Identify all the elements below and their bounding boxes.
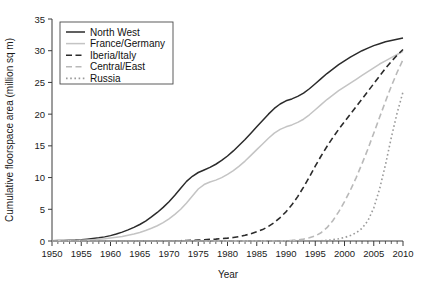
legend-label-3: Central/East bbox=[90, 61, 145, 72]
y-tick-label: 30 bbox=[34, 45, 45, 56]
legend-label-2: Iberia/Italy bbox=[90, 50, 136, 61]
y-tick-label: 10 bbox=[34, 172, 45, 183]
x-tick-label: 1995 bbox=[305, 248, 326, 259]
y-tick-label: 15 bbox=[34, 140, 45, 151]
x-tick-label: 2005 bbox=[363, 248, 384, 259]
legend: North WestFrance/GermanyIberia/ItalyCent… bbox=[60, 22, 173, 84]
x-tick-label: 1950 bbox=[41, 248, 62, 259]
x-tick-label: 1990 bbox=[275, 248, 296, 259]
y-tick-label: 35 bbox=[34, 14, 45, 25]
legend-label-0: North West bbox=[90, 27, 140, 38]
chart-container: Cumulative floorspace area (million sq m… bbox=[0, 0, 426, 288]
x-tick-label: 1955 bbox=[71, 248, 92, 259]
x-tick-label: 2010 bbox=[392, 248, 413, 259]
x-tick-label: 1975 bbox=[188, 248, 209, 259]
legend-label-1: France/Germany bbox=[90, 38, 165, 49]
x-tick-label: 2000 bbox=[334, 248, 355, 259]
x-axis-title: Year bbox=[218, 269, 239, 280]
x-tick-label: 1980 bbox=[217, 248, 238, 259]
y-tick-label: 25 bbox=[34, 77, 45, 88]
y-tick-label: 0 bbox=[40, 236, 45, 247]
x-tick-label: 1960 bbox=[100, 248, 121, 259]
y-axis-title: Cumulative floorspace area (million sq m… bbox=[4, 38, 15, 222]
line-chart: Cumulative floorspace area (million sq m… bbox=[0, 0, 426, 288]
series-line-russia bbox=[52, 92, 403, 241]
x-tick-label: 1985 bbox=[246, 248, 267, 259]
y-tick-label: 20 bbox=[34, 109, 45, 120]
x-tick-label: 1970 bbox=[158, 248, 179, 259]
y-tick-label: 5 bbox=[40, 204, 45, 215]
x-axis-ticks: 1950195519601965197019751980198519901995… bbox=[41, 241, 413, 259]
y-axis-ticks: 05101520253035 bbox=[34, 14, 52, 247]
x-tick-label: 1965 bbox=[129, 248, 150, 259]
legend-label-4: Russia bbox=[90, 73, 121, 84]
series-line-central-east bbox=[52, 60, 403, 241]
